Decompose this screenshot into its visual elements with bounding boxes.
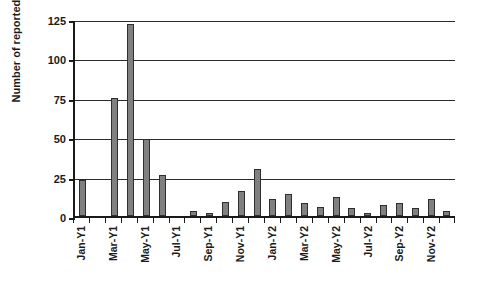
bar-slot <box>217 21 233 216</box>
bar <box>269 199 276 216</box>
x-axis-label-slot: Sep-Y2 <box>391 226 407 281</box>
bar <box>380 205 387 216</box>
y-axis-tick-label: 100 <box>48 54 66 66</box>
bar <box>364 213 371 216</box>
x-axis-tick-label: May-Y1 <box>139 226 151 263</box>
bar <box>443 211 450 216</box>
x-axis-tick <box>216 218 232 224</box>
x-axis-tick <box>105 218 121 224</box>
y-axis-tick-label: 125 <box>48 15 66 27</box>
x-axis-label-slot <box>407 226 423 281</box>
x-axis-tick <box>169 218 185 224</box>
bar <box>206 213 213 216</box>
bar-slot <box>297 21 313 216</box>
y-axis-tick-label: 25 <box>54 173 66 185</box>
bar-slot <box>328 21 344 216</box>
bar <box>238 191 245 216</box>
x-axis-tick <box>360 218 376 224</box>
x-axis-tick-label: Sep-Y1 <box>202 226 214 262</box>
x-axis-label-slot: Mar-Y1 <box>105 226 121 281</box>
bar-chart: Number of reported failures 025507510012… <box>0 0 479 281</box>
x-axis-label-slot <box>248 226 264 281</box>
bar <box>254 169 261 216</box>
x-axis-label-slot <box>121 226 137 281</box>
x-axis-tick-label: Mar-Y2 <box>298 226 310 261</box>
plot-area: 0255075100125 <box>73 21 455 218</box>
bar <box>143 139 150 216</box>
x-axis-tick <box>344 218 360 224</box>
x-axis-tick-label: Jan-Y1 <box>75 226 87 260</box>
x-axis-tick-label: Sep-Y2 <box>393 226 405 262</box>
y-axis-tick-label: 50 <box>54 133 66 145</box>
x-axis-tick-label: Mar-Y1 <box>107 226 119 261</box>
bar-series <box>75 21 455 216</box>
bar-slot <box>265 21 281 216</box>
x-axis-label-slot <box>216 226 232 281</box>
x-axis-label-slot: May-Y2 <box>328 226 344 281</box>
y-axis-tick-label: 75 <box>54 94 66 106</box>
x-axis-label-slot: Mar-Y2 <box>296 226 312 281</box>
x-axis-tick <box>280 218 296 224</box>
x-axis-tick <box>232 218 248 224</box>
x-axis-tick <box>376 218 392 224</box>
y-axis-tick-label: 0 <box>60 212 66 224</box>
bar-slot <box>170 21 186 216</box>
bar-slot <box>407 21 423 216</box>
bar-slot <box>360 21 376 216</box>
x-axis-label-slot <box>89 226 105 281</box>
x-axis-label-slot <box>344 226 360 281</box>
x-axis-tick <box>264 218 280 224</box>
bar <box>348 208 355 216</box>
x-axis-tick <box>137 218 153 224</box>
bar <box>396 203 403 216</box>
x-axis-tick-label: Jan-Y2 <box>266 226 278 260</box>
x-axis-label-slot <box>439 226 455 281</box>
bar-slot <box>122 21 138 216</box>
x-axis-tick-label: Jul-Y2 <box>362 226 374 258</box>
x-axis-tick <box>184 218 200 224</box>
bar-slot <box>91 21 107 216</box>
bar-slot <box>376 21 392 216</box>
x-axis-tick-label: May-Y2 <box>330 226 342 263</box>
bar <box>333 197 340 216</box>
x-axis-tick-label: Nov-Y2 <box>425 226 437 262</box>
x-axis-end-tick <box>454 218 455 223</box>
bar <box>285 194 292 216</box>
x-axis-label-slot <box>376 226 392 281</box>
bar-slot <box>202 21 218 216</box>
bar-slot <box>423 21 439 216</box>
x-axis-label-slot <box>312 226 328 281</box>
bar-slot <box>392 21 408 216</box>
x-axis-tick-label: Jul-Y1 <box>170 226 182 258</box>
bar <box>127 24 134 216</box>
bar-slot <box>312 21 328 216</box>
x-axis-tick <box>296 218 312 224</box>
bar-slot <box>344 21 360 216</box>
x-axis-label-slot <box>184 226 200 281</box>
x-axis-tick <box>328 218 344 224</box>
bar <box>111 98 118 216</box>
x-axis-label-slot: Jul-Y2 <box>360 226 376 281</box>
bar <box>159 175 166 216</box>
bar-slot <box>233 21 249 216</box>
x-axis-tick <box>200 218 216 224</box>
bar-slot <box>281 21 297 216</box>
bar-slot <box>138 21 154 216</box>
x-axis-tick <box>89 218 105 224</box>
x-axis-label-slot: Sep-Y1 <box>200 226 216 281</box>
bar-slot <box>439 21 455 216</box>
x-axis-tick <box>423 218 439 224</box>
x-axis-tick <box>248 218 264 224</box>
bar <box>412 208 419 216</box>
bar <box>79 180 86 216</box>
x-axis-tick <box>121 218 137 224</box>
bar-slot <box>107 21 123 216</box>
bar <box>317 207 324 216</box>
x-axis-label-slot: Jul-Y1 <box>169 226 185 281</box>
x-axis-tick <box>153 218 169 224</box>
x-axis-tick <box>391 218 407 224</box>
x-axis-ticks <box>73 218 455 224</box>
bar-slot <box>75 21 91 216</box>
x-axis-label-slot <box>153 226 169 281</box>
y-axis-title: Number of reported failures <box>6 0 26 128</box>
